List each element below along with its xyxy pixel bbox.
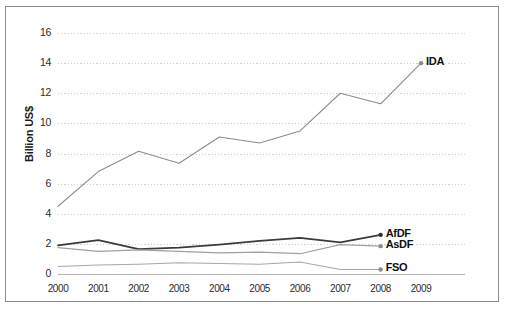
figure-caption (6, 306, 306, 319)
series-line-asdf (58, 245, 381, 254)
series-label-fso: FSO (386, 261, 408, 273)
series-endpoint-marker-fso (378, 267, 382, 271)
series-label-afdf: AfDF (386, 227, 411, 239)
plot-area: Billion US$ 1614121086420 20002001200220… (0, 0, 507, 320)
series-label-asdf: AsDF (386, 238, 414, 250)
series-lines (0, 0, 507, 320)
series-endpoint-marker-asdf (378, 244, 382, 248)
series-label-ida: IDA (426, 55, 444, 67)
series-endpoint-marker-afdf (378, 233, 382, 237)
series-line-ida (58, 63, 421, 206)
series-endpoint-marker-ida (419, 61, 423, 65)
series-line-fso (58, 262, 381, 270)
chart-figure: Billion US$ 1614121086420 20002001200220… (0, 0, 507, 320)
series-line-afdf (58, 235, 381, 249)
